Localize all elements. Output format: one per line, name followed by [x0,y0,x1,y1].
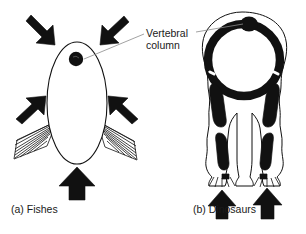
vertebral-column-label-line1: Vertebral [146,27,188,39]
panel-a-fish [14,15,138,200]
panel-b-dinosaur [202,12,286,219]
arrow-under-right-foot [253,188,282,219]
fish-vertebral-column-dot [69,52,83,66]
arrow-top-left [26,15,55,45]
ring-gap-right [274,72,278,74]
arrow-mid-left [16,96,46,124]
caption-panel-a: (a) Fishes [11,203,58,215]
arrow-mid-right [108,96,138,124]
ring-gap-left [210,72,214,74]
vertebral-column-label: Vertebral column [146,27,188,52]
arrow-top-right [100,16,129,45]
vertebral-column-label-line2: column [146,39,188,51]
caption-panel-b: (b) Dinosaurs [193,203,256,215]
figure-page: Vertebral column (a) Fishes (b) Dinosaur… [0,0,306,234]
arrow-bottom-center [59,167,95,200]
